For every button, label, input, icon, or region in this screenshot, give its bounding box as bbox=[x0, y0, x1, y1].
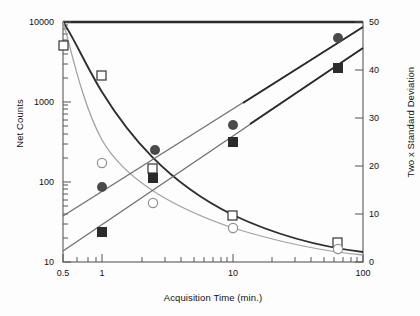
right-axis-ticks bbox=[355, 22, 363, 262]
bottom-tick-label: 1 bbox=[82, 268, 122, 278]
series-filled-circle-line-upper bbox=[243, 27, 363, 103]
markers-open-circle bbox=[97, 158, 342, 253]
x-axis-title: Acquisition Time (min.) bbox=[118, 292, 308, 303]
right-tick-label: 0 bbox=[369, 257, 399, 267]
bottom-tick-label: 0.5 bbox=[43, 268, 83, 278]
series-filled-square-line-upper bbox=[250, 48, 363, 124]
markers-filled-square bbox=[97, 63, 343, 237]
right-tick-label: 30 bbox=[369, 113, 399, 123]
chart-figure: 10000 1000 100 10 50 40 30 20 10 0 0.5 1… bbox=[0, 0, 420, 316]
right-tick-label: 50 bbox=[369, 17, 399, 27]
bottom-tick-label: 100 bbox=[343, 268, 383, 278]
right-tick-label: 20 bbox=[369, 161, 399, 171]
left-tick-label: 100 bbox=[8, 177, 54, 187]
y-axis-right-title: Two x Standard Deviation bbox=[405, 74, 416, 178]
bottom-axis-ticks bbox=[63, 254, 363, 262]
right-tick-label: 10 bbox=[369, 209, 399, 219]
plot-frame bbox=[63, 22, 363, 262]
right-tick-label: 40 bbox=[369, 65, 399, 75]
markers-filled-circle bbox=[97, 33, 343, 192]
left-tick-label: 10000 bbox=[8, 17, 54, 27]
left-axis-ticks bbox=[63, 22, 71, 262]
left-tick-label: 10 bbox=[8, 257, 54, 267]
bottom-tick-label: 10 bbox=[213, 268, 253, 278]
y-axis-left-title: Net Counts bbox=[14, 79, 25, 169]
